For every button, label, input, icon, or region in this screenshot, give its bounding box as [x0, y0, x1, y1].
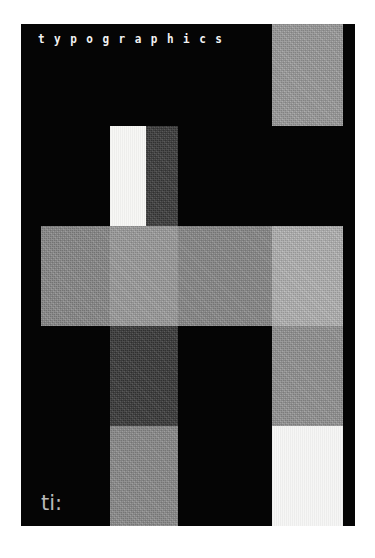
poster-title: typographics: [38, 32, 231, 47]
block-dark-column-lower: [110, 326, 178, 426]
poster-footer-mark: ti:: [41, 492, 62, 514]
block-band-right: [178, 226, 278, 326]
block-dark-column-upper: [146, 126, 178, 226]
poster-canvas: typographics ti:: [0, 0, 375, 558]
block-right-light: [272, 226, 343, 326]
block-center-bottom: [110, 426, 178, 526]
poster-artwork: typographics ti:: [21, 24, 355, 526]
block-right-mid: [272, 326, 343, 426]
block-band-center: [110, 226, 178, 326]
block-right-white: [272, 426, 343, 526]
block-band-left: [41, 226, 110, 326]
block-top-right: [272, 24, 343, 126]
block-white-column: [110, 126, 146, 226]
